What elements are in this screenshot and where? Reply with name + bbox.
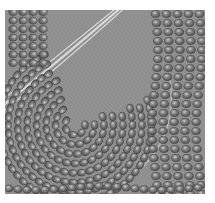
beadwork-illustration — [5, 10, 205, 194]
beadwork-photo — [5, 10, 205, 194]
